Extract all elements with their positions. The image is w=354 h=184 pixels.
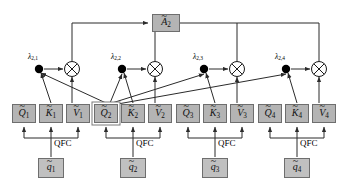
qfc-label-4: QFC bbox=[300, 138, 318, 148]
input-box-3[interactable]: ~ q3 bbox=[202, 158, 228, 178]
q-box-1-label: ~ Q1 bbox=[19, 108, 30, 120]
k-box-2-label: ~ K2 bbox=[128, 108, 138, 120]
input-box-1[interactable]: ~ q1 bbox=[38, 158, 64, 178]
q-box-3-label: ~ Q3 bbox=[183, 108, 194, 120]
q-box-4-label: ~ Q4 bbox=[265, 108, 276, 120]
lambda-label-4: λ2,4 bbox=[275, 52, 285, 61]
k-box-2[interactable]: ~ K2 bbox=[121, 104, 145, 123]
v-box-4[interactable]: ~ V4 bbox=[312, 104, 336, 123]
v-box-2[interactable]: ~ V2 bbox=[148, 104, 172, 123]
output-attention-label: ~ A2 bbox=[161, 17, 171, 29]
q-box-2-label: ~ Q2 bbox=[101, 108, 112, 120]
diagram-canvas: ~ A2 λ2,1 λ2,2 λ2,3 λ2,4 bbox=[0, 0, 354, 184]
input-box-4[interactable]: ~ q4 bbox=[284, 158, 310, 178]
input-box-1-label: ~ q1 bbox=[47, 162, 56, 174]
q-box-1[interactable]: ~ Q1 bbox=[12, 104, 36, 123]
lambda-label-1: λ2,1 bbox=[28, 52, 38, 61]
output-attention-box[interactable]: ~ A2 bbox=[152, 14, 180, 32]
input-box-2[interactable]: ~ q2 bbox=[120, 158, 146, 178]
v-box-1[interactable]: ~ V1 bbox=[66, 104, 90, 123]
input-box-3-label: ~ q3 bbox=[211, 162, 220, 174]
v-box-1-label: ~ V1 bbox=[73, 108, 83, 120]
v-box-2-label: ~ V2 bbox=[155, 108, 165, 120]
q-box-4[interactable]: ~ Q4 bbox=[258, 104, 282, 123]
lambda-label-2: λ2,2 bbox=[111, 52, 121, 61]
k-box-3-label: ~ K3 bbox=[210, 108, 220, 120]
v-box-3[interactable]: ~ V3 bbox=[230, 104, 254, 123]
k-box-4-label: ~ K4 bbox=[292, 108, 302, 120]
v-box-3-label: ~ V3 bbox=[237, 108, 247, 120]
qfc-label-1: QFC bbox=[54, 138, 72, 148]
lambda-label-3: λ2,3 bbox=[193, 52, 203, 61]
k-box-1-label: ~ K1 bbox=[46, 108, 56, 120]
input-box-4-label: ~ q4 bbox=[293, 162, 302, 174]
qfc-label-3: QFC bbox=[218, 138, 236, 148]
k-box-4[interactable]: ~ K4 bbox=[285, 104, 309, 123]
v-box-4-label: ~ V4 bbox=[319, 108, 329, 120]
k-box-3[interactable]: ~ K3 bbox=[203, 104, 227, 123]
k-box-1[interactable]: ~ K1 bbox=[39, 104, 63, 123]
qfc-label-2: QFC bbox=[136, 138, 154, 148]
q-box-3[interactable]: ~ Q3 bbox=[176, 104, 200, 123]
q-box-2[interactable]: ~ Q2 bbox=[94, 104, 118, 123]
input-box-2-label: ~ q2 bbox=[129, 162, 138, 174]
